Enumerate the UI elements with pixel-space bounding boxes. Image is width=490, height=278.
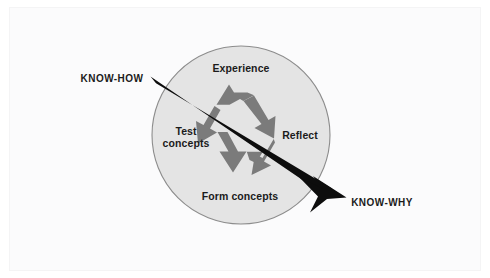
diagram-canvas [0,0,490,278]
cycle-label-test-concepts: Test concepts [163,125,210,150]
axis-label-know-why: KNOW-WHY [351,197,413,209]
cycle-label-test-concepts-line2: concepts [163,137,210,149]
axis-label-know-how: KNOW-HOW [81,73,144,85]
cycle-label-test-concepts-line1: Test [163,125,210,137]
cycle-label-form-concepts: Form concepts [202,190,279,202]
cycle-label-reflect: Reflect [282,129,318,141]
cycle-label-experience: Experience [212,62,269,74]
diagram-figure: Experience Test concepts Reflect Form co… [0,0,490,278]
